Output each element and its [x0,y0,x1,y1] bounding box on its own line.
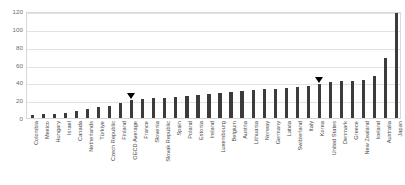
bar [229,92,232,118]
x-tick-label: Germany [276,121,282,144]
bar [218,93,221,118]
y-axis: 020406080100120 [0,0,26,185]
x-tick-label: United States [332,121,338,155]
x-tick-label: Poland [188,121,194,139]
x-tick-label: Slovak Republic [166,121,172,162]
bar [318,84,321,118]
down-triangle-marker-korea [315,77,323,83]
x-tick-label: Japan [398,121,404,137]
bar [163,98,166,119]
x-tick-label: Estonia [199,121,205,140]
bar [252,90,255,118]
y-tick-label: 120 [12,9,23,15]
bar [31,115,34,118]
x-axis-labels: ColombiaMexicoHungaryIsraelCanadaNetherl… [26,119,401,185]
x-tick-label: Colombia [34,121,40,145]
x-tick-label: Ireland [210,121,216,138]
x-tick-label: Lithuania [254,121,260,144]
y-tick-label: 0 [19,116,23,122]
x-tick-label: Italy [309,121,315,132]
bar [108,106,111,118]
x-tick-label: Norway [265,121,271,140]
x-tick-label: France [144,121,150,139]
bar [75,111,78,118]
x-tick-label: Luxembourg [221,121,227,153]
y-tick-label: 20 [16,98,23,104]
bar [263,89,266,118]
bar [174,97,177,118]
bar [373,76,376,118]
bar-chart: 020406080100120 ColombiaMexicoHungaryIsr… [0,0,405,185]
bar [285,88,288,118]
down-triangle-marker-oecd-average [127,93,135,99]
bar [196,95,199,118]
y-tick-label: 100 [12,27,23,33]
bar [152,98,155,118]
x-tick-label: Korea [320,121,326,136]
x-tick-label: OECD Average [133,121,139,160]
x-tick-label: Türkiye [100,121,106,140]
x-tick-label: Israel [67,121,73,135]
bar [86,109,89,118]
bar [64,113,67,118]
bar [207,94,210,118]
x-tick-label: Czech Republic [111,121,117,161]
bar [340,81,343,118]
bar [130,100,133,118]
bar [351,81,354,118]
x-tick-label: Iceland [376,121,382,139]
x-tick-label: Latvia [287,121,293,136]
x-tick-label: Canada [78,121,84,141]
bar [185,96,188,118]
bar [141,99,144,118]
x-tick-label: Finland [122,121,128,140]
bar [395,13,398,118]
bar [296,87,299,118]
x-tick-label: Belgium [232,121,238,142]
x-tick-label: Denmark [343,121,349,144]
y-tick-label: 40 [16,80,23,86]
y-tick-label: 60 [16,62,23,68]
bar [119,103,122,118]
plot-area [26,12,401,119]
bar [307,86,310,118]
bar [42,114,45,118]
bars-layer [27,13,400,118]
x-tick-label: Switzerland [298,121,304,150]
bar [97,107,100,118]
x-tick-label: Mexico [45,121,51,139]
x-tick-label: Australia [387,121,393,143]
bar [240,91,243,118]
bar [362,80,365,118]
x-tick-label: New Zealand [365,121,371,155]
x-tick-label: Spain [177,121,183,136]
x-tick-label: Austria [243,121,249,139]
x-tick-label: Greece [354,121,360,140]
bar [384,58,387,118]
bar [329,82,332,118]
x-tick-label: Netherlands [89,121,95,152]
x-tick-label: Slovenia [155,121,161,143]
y-tick-label: 80 [16,45,23,51]
bar [53,114,56,118]
bar [274,89,277,118]
x-tick-label: Hungary [56,121,62,143]
